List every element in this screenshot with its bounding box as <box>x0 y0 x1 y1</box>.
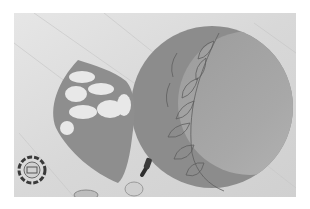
cutout-hole <box>69 105 97 119</box>
flower-cutout <box>60 121 74 135</box>
cutout-hole <box>69 71 95 83</box>
cutout-hole <box>65 86 87 102</box>
cutout-hole <box>88 83 114 95</box>
photo-scene <box>14 13 296 197</box>
photo <box>14 13 296 197</box>
cutout-hole <box>117 94 131 116</box>
